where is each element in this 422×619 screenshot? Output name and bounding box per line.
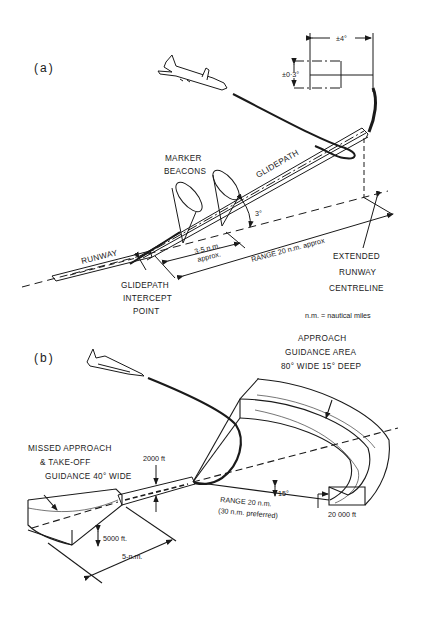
panel-b-label: (b): [34, 351, 55, 365]
panel-a-label: (a): [34, 61, 55, 75]
extended-centreline: [22, 191, 388, 287]
missed-approach-label-1: MISSED APPROACH: [28, 444, 112, 453]
runway-height-label: 2000 ft: [143, 454, 165, 463]
range-label: RANGE 20 n.m. approx: [250, 236, 326, 264]
height-approach-label: 20 000 ft: [328, 510, 356, 519]
approach-area-label-1: APPROACH: [298, 334, 346, 343]
marker-beacon-inner: [208, 166, 243, 226]
intercept-label-3: POINT: [133, 307, 160, 316]
centreline-label-2: RUNWAY: [339, 268, 377, 277]
missed-approach-volume: [28, 489, 176, 583]
marker-beacons-label-1: MARKER: [165, 154, 202, 163]
approach-area-label-3: 80° WIDE 15° DEEP: [281, 362, 362, 371]
missed-approach-label-2: & TAKE-OFF: [40, 458, 90, 467]
glidepath-label: GLIDEPATH: [255, 148, 301, 180]
approach-arrow: [369, 88, 376, 132]
missed-distance-label: 5-n.m.: [122, 552, 142, 561]
centreline-label-3: CENTRELINE: [329, 284, 384, 293]
glide-angle-label: 3°: [255, 209, 262, 218]
panel-a: (a) ±4° ±0·3°: [22, 33, 393, 316]
missed-height-label: 5000 ft.: [103, 534, 127, 543]
airliner-icon: [158, 55, 227, 90]
centreline-label-1: EXTENDED: [333, 252, 380, 261]
panel-b: (b) APPROACH GUIDANCE AREA 80° WI: [28, 334, 398, 583]
glidepath-beam: [130, 128, 368, 264]
coverage-dimension-box: [294, 33, 373, 92]
marker-beacons-label-2: BEACONS: [164, 167, 206, 176]
vertical-coverage-label: ±0·3°: [282, 70, 299, 79]
approach-area-label-2: GUIDANCE AREA: [285, 348, 356, 357]
approach-guidance-volume: [193, 378, 398, 505]
intercept-label-2: INTERCEPT: [123, 294, 172, 303]
jet-aircraft-icon: [87, 349, 144, 376]
missed-approach-label-3: GUIDANCE 40° WIDE: [45, 472, 132, 481]
elevation-angle-label: 15°: [278, 489, 289, 498]
glide-angle-arc: [242, 200, 250, 227]
lateral-coverage-label: ±4°: [336, 34, 347, 43]
units-legend: n.m. = nautical miles: [305, 311, 371, 320]
flight-path-b: [148, 378, 241, 484]
approach-guidance-diagram: (a) ±4° ±0·3°: [0, 0, 422, 619]
height-approach-pointer: [318, 494, 328, 508]
intercept-label-1: GLIDEPATH: [121, 281, 169, 290]
